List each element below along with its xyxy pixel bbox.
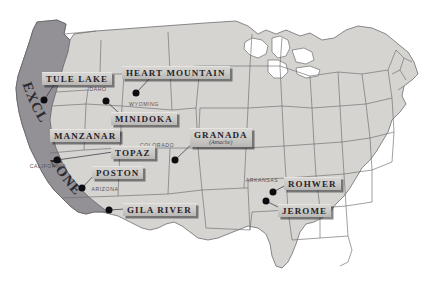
camp-label-text-topaz: TOPAZ bbox=[115, 149, 151, 158]
camp-label-subtext-granada: (Amache) bbox=[194, 140, 248, 146]
camp-label-text-jerome: JEROME bbox=[282, 207, 327, 216]
camp-label-rohwer[interactable]: ROHWER bbox=[284, 177, 341, 190]
camp-marker-gila-river[interactable] bbox=[106, 207, 113, 214]
camp-marker-jerome[interactable] bbox=[263, 198, 270, 205]
camp-label-text-gila-river: GILA RIVER bbox=[127, 206, 192, 215]
camp-label-minidoka[interactable]: MINIDOKA bbox=[111, 112, 177, 125]
camp-marker-minidoka[interactable] bbox=[103, 98, 110, 105]
camp-label-granada[interactable]: GRANADA (Amache) bbox=[190, 128, 252, 147]
camp-label-text-poston: POSTON bbox=[96, 169, 139, 178]
camp-label-heart-mountain[interactable]: HEART MOUNTAIN bbox=[122, 66, 230, 79]
camp-label-poston[interactable]: POSTON bbox=[92, 166, 143, 179]
camp-label-tule-lake[interactable]: TULE LAKE bbox=[42, 72, 112, 85]
camp-marker-tule-lake[interactable] bbox=[41, 97, 48, 104]
camp-label-jerome[interactable]: JEROME bbox=[278, 204, 331, 217]
camp-marker-topaz[interactable] bbox=[54, 157, 61, 164]
camp-label-text-tule-lake: TULE LAKE bbox=[46, 75, 108, 84]
camp-label-text-heart-mountain: HEART MOUNTAIN bbox=[126, 69, 226, 78]
camp-label-text-rohwer: ROHWER bbox=[288, 180, 337, 189]
camp-label-text-minidoka: MINIDOKA bbox=[115, 115, 173, 124]
camp-marker-heart-mountain[interactable] bbox=[133, 90, 140, 97]
camp-marker-poston[interactable] bbox=[79, 185, 86, 192]
incarceration-camps-map: EXCLUSION ZONE IDAHO WYOMING UTAH COLORA… bbox=[0, 0, 438, 290]
camp-label-text-manzanar: MANZANAR bbox=[54, 132, 116, 141]
camp-marker-granada[interactable] bbox=[172, 157, 179, 164]
camp-label-topaz[interactable]: TOPAZ bbox=[111, 146, 155, 159]
camp-label-manzanar[interactable]: MANZANAR bbox=[50, 129, 120, 142]
camp-label-gila-river[interactable]: GILA RIVER bbox=[123, 203, 196, 216]
camp-marker-rohwer[interactable] bbox=[270, 189, 277, 196]
